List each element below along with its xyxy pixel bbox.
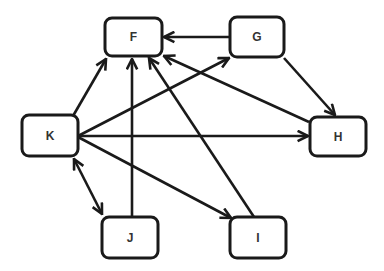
nodes-layer: FGKHJI xyxy=(22,17,366,258)
node-i: I xyxy=(230,217,286,258)
node-label: G xyxy=(252,30,261,44)
node-g: G xyxy=(230,17,284,57)
node-j: J xyxy=(102,217,158,258)
node-h: H xyxy=(310,117,366,156)
node-label: F xyxy=(130,30,137,44)
node-label: I xyxy=(256,231,259,245)
node-label: J xyxy=(127,231,134,245)
edges-layer xyxy=(73,37,335,218)
edge-i-to-f-arrow xyxy=(149,58,254,217)
edge-k-to-f-arrow xyxy=(73,59,106,116)
edge-k-to-j-arrow xyxy=(74,159,102,214)
edge-g-to-h-arrow xyxy=(284,58,335,115)
node-label: K xyxy=(46,129,55,143)
node-k: K xyxy=(22,115,78,156)
graph-canvas: FGKHJI xyxy=(0,0,384,271)
node-label: H xyxy=(334,130,343,144)
node-f: F xyxy=(105,18,162,56)
